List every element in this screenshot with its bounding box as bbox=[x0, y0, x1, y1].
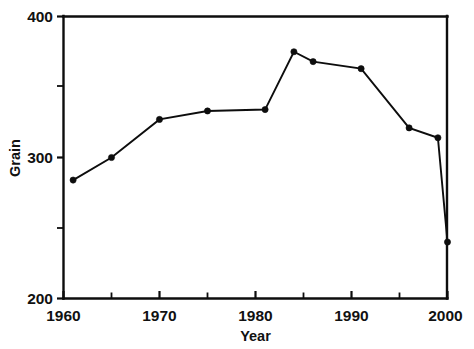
data-point bbox=[406, 125, 412, 131]
data-point bbox=[358, 66, 364, 72]
data-point bbox=[444, 239, 450, 245]
data-point bbox=[156, 116, 162, 122]
y-tick-label-300: 300 bbox=[27, 149, 53, 166]
x-tick-label-2000: 2000 bbox=[428, 307, 462, 324]
data-point bbox=[108, 154, 114, 160]
data-point bbox=[291, 49, 297, 55]
data-point bbox=[204, 108, 210, 114]
y-tick-label-400: 400 bbox=[27, 8, 53, 25]
data-point bbox=[310, 59, 316, 65]
x-axis-title: Year bbox=[240, 328, 271, 344]
data-point bbox=[70, 177, 76, 183]
x-tick-label-1960: 1960 bbox=[46, 307, 80, 324]
data-point bbox=[435, 135, 441, 141]
x-tick-label-1990: 1990 bbox=[334, 307, 368, 324]
line-chart: 400 300 200 1960 1970 1980 1990 2000 Yea… bbox=[0, 0, 474, 349]
y-axis-title: Grain bbox=[7, 139, 23, 177]
chart-canvas: 400 300 200 1960 1970 1980 1990 2000 Yea… bbox=[0, 0, 474, 349]
x-tick-label-1970: 1970 bbox=[142, 307, 176, 324]
data-point bbox=[262, 106, 268, 112]
y-tick-label-200: 200 bbox=[27, 290, 53, 307]
chart-background bbox=[0, 0, 474, 349]
x-tick-label-1980: 1980 bbox=[238, 307, 272, 324]
